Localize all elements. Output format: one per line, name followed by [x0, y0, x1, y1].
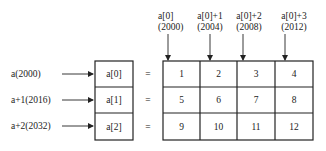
equals-sign: =	[140, 61, 156, 87]
matrix-cell: 2	[200, 61, 237, 87]
matrix-cell: 3	[237, 61, 275, 87]
matrix-cell: 4	[275, 61, 313, 87]
col-pointer-label: a[0]+1 (2004)	[192, 11, 228, 33]
matrix-cell: 7	[237, 87, 275, 113]
row-pointer-label: a+1(2016)	[11, 95, 51, 106]
row-box-cell: a[0]	[95, 61, 133, 87]
matrix-cell: 12	[275, 113, 313, 140]
col-pointer-label: a[0]+3 (2012)	[276, 11, 312, 33]
col-pointer-label: a[0] (2000)	[158, 11, 188, 33]
col-pointer-label: a[0]+2 (2008)	[231, 11, 267, 33]
matrix-cell: 9	[163, 113, 200, 140]
equals-sign: =	[140, 113, 156, 140]
matrix-cell: 8	[275, 87, 313, 113]
row-box-cell: a[1]	[95, 87, 133, 113]
matrix-cell: 6	[200, 87, 237, 113]
row-pointer-label: a(2000)	[11, 69, 41, 80]
matrix-cell: 10	[200, 113, 237, 140]
matrix-cell: 1	[163, 61, 200, 87]
matrix-cell: 11	[237, 113, 275, 140]
row-pointer-label: a+2(2032)	[11, 121, 51, 132]
matrix-cell: 5	[163, 87, 200, 113]
equals-sign: =	[140, 87, 156, 113]
row-box-cell: a[2]	[95, 113, 133, 140]
